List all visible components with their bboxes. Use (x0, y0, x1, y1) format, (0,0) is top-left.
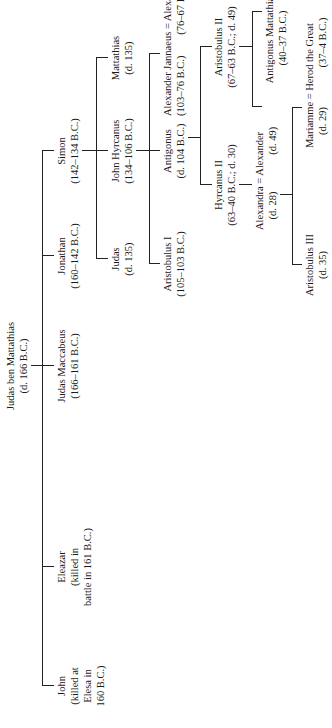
node-aristobulus-i: Aristobulus I (105–103 B.C.) (161, 231, 187, 297)
connector-gen2 (96, 58, 97, 259)
name: Aristobulus II (212, 6, 225, 88)
connector (188, 137, 200, 138)
dates: (40–37 B.C.) (276, 0, 289, 83)
connector (252, 47, 253, 107)
node-judas-maccabeus: Judas Maccabeus (166–161 B.C.) (55, 329, 81, 402)
dates: (d. 104 B.C.) (174, 123, 187, 178)
dates: (166–161 B.C.) (68, 329, 81, 402)
alexander-jannaeus-dates: (103–76 B.C.) (175, 56, 186, 116)
node-aristobulus-iii: Aristobulus III (d. 35) (303, 234, 329, 296)
connector (42, 255, 54, 256)
connector-gen1 (42, 151, 43, 686)
detail: Elesa in (81, 665, 94, 706)
name: Eleazar (55, 528, 68, 606)
node-mariamme-herod: Mariamme = Herod the Great (d. 29) (37–4… (303, 18, 329, 148)
node-antigonus: Antigonus (d. 104 B.C.) (161, 123, 187, 178)
alexandra-dates: (76–67 B.C.) (175, 0, 186, 35)
node-alexandra-alexander: Alexandra = Alexander (d. 28) (d. 49) (253, 127, 279, 230)
connector (149, 263, 160, 264)
name: Mariamme = Herod the Great (303, 18, 316, 148)
dates: (103–76 B.C.) (76–67 B.C.) (174, 0, 187, 116)
node-antigonus-mattathias: Antigonus Mattathias (40–37 B.C.) (263, 0, 289, 83)
name: John (55, 665, 68, 706)
dates: (d. 28) (d. 49) (266, 127, 279, 230)
node-eleazar: Eleazar (killed in battle in 161 B.C.) (55, 528, 94, 606)
connector (149, 53, 160, 54)
dates: (160–142 B.C.) (68, 223, 81, 289)
connector (96, 258, 108, 259)
node-john-hyrcanus: John Hyrcanus (134–106 B.C.) (109, 118, 135, 184)
connector (96, 150, 108, 151)
connector (252, 11, 262, 12)
node-aristobulus-ii: Aristobulus II (67–63 B.C.; d. 49) (212, 6, 238, 88)
dates: (d. 135) (122, 36, 135, 80)
name: Alexander Jannaeus = Alexandra (161, 0, 174, 116)
name: Alexandra = Alexander (253, 127, 266, 230)
connector (96, 57, 108, 58)
dates: (63–40 B.C.; d. 30) (225, 144, 238, 226)
connector (149, 150, 160, 151)
dates: (d. 35) (316, 234, 329, 296)
node-hyrcanus-ii: Hyrcanus II (63–40 B.C.; d. 30) (212, 144, 238, 226)
connector (31, 365, 42, 366)
connector (136, 150, 149, 151)
alexander-dates: (d. 49) (267, 127, 278, 155)
dates: (67–63 B.C.; d. 49) (225, 6, 238, 88)
dates: (d. 135) (122, 242, 135, 275)
dates: (134–106 B.C.) (122, 118, 135, 184)
node-simon: Simon (142–134 B.C.) (55, 118, 81, 184)
name: Simon (55, 118, 68, 184)
herod-dates: (37–4 B.C.) (317, 18, 328, 68)
dates: (142–134 B.C.) (68, 118, 81, 184)
node-john: John (killed at Elesa in 160 B.C.) (55, 665, 107, 706)
name: Judas (109, 242, 122, 275)
mariamme-dates: (d. 29) (317, 107, 328, 135)
connector (239, 184, 252, 185)
connector (42, 685, 54, 686)
node-mattathias: Mattathias (d. 135) (109, 36, 135, 80)
node-alexander-jannaeus-alexandra: Alexander Jannaeus = Alexandra (103–76 B… (161, 0, 187, 116)
name: Aristobulus I (161, 231, 174, 297)
node-judas: Judas (d. 135) (109, 242, 135, 275)
node-judas-ben-mattathias: Judas ben Mattathias (d. 166 B.C.) (4, 322, 30, 410)
name: Judas Maccabeus (55, 329, 68, 402)
name: Jonathan (55, 223, 68, 289)
connector (42, 150, 54, 151)
dates: (d. 166 B.C.) (17, 322, 30, 410)
detail: battle in 161 B.C.) (81, 528, 94, 606)
detail: (killed in (68, 528, 81, 606)
detail: (killed at (68, 665, 81, 706)
connector (292, 264, 302, 265)
connector (200, 184, 212, 185)
name: Hyrcanus II (212, 144, 225, 226)
node-jonathan: Jonathan (160–142 B.C.) (55, 223, 81, 289)
connector (252, 11, 253, 47)
name: Judas ben Mattathias (4, 322, 17, 410)
dates: (105–103 B.C.) (174, 231, 187, 297)
connector (42, 365, 54, 366)
dates: (d. 29) (37–4 B.C.) (316, 18, 329, 148)
name: Mattathias (109, 36, 122, 80)
connector-gen3 (149, 54, 150, 264)
alexandra-dates: (d. 28) (267, 192, 278, 220)
family-tree-diagram: Judas ben Mattathias (d. 166 B.C.) John … (0, 0, 332, 728)
connector (239, 46, 252, 47)
connector (82, 150, 96, 151)
detail: 160 B.C.) (94, 665, 107, 706)
connector (200, 46, 212, 47)
name: John Hyrcanus (109, 118, 122, 184)
name: Antigonus (161, 123, 174, 178)
connector (292, 107, 302, 108)
connector (280, 194, 292, 195)
connector (42, 566, 54, 567)
name: Antigonus Mattathias (263, 0, 276, 83)
name: Aristobulus III (303, 234, 316, 296)
connector-gen4 (200, 47, 201, 185)
connector (252, 106, 262, 107)
connector-gen6 (292, 108, 293, 265)
